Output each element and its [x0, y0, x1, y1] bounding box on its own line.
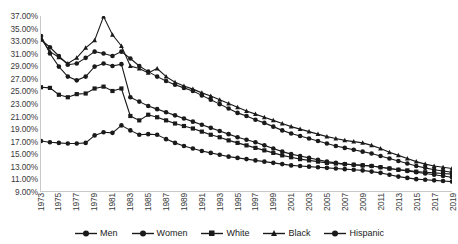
- data-point: [57, 64, 62, 69]
- legend-item-white[interactable]: White: [200, 228, 249, 239]
- y-tick-label: 21.00%: [10, 113, 38, 121]
- data-point: [450, 179, 452, 184]
- y-tick-label: 13.00%: [10, 163, 38, 171]
- x-axis: 1973197519771979198119831985198719891991…: [40, 193, 452, 227]
- data-point: [226, 132, 231, 137]
- data-point: [423, 177, 428, 182]
- data-point: [209, 133, 213, 137]
- data-point: [48, 86, 52, 90]
- data-point: [155, 74, 160, 79]
- data-point: [101, 16, 106, 19]
- data-point: [360, 168, 365, 173]
- data-point: [66, 74, 71, 79]
- data-point: [432, 178, 437, 183]
- x-tick-label: 2015: [412, 193, 422, 211]
- data-point: [84, 91, 88, 95]
- data-point: [280, 153, 284, 157]
- data-point: [146, 113, 150, 117]
- x-tick-label: 1975: [53, 193, 63, 211]
- data-point: [182, 124, 186, 128]
- y-tick-label: 23.00%: [10, 100, 38, 108]
- data-point: [271, 161, 276, 166]
- data-point: [74, 141, 79, 146]
- data-point: [155, 132, 160, 137]
- line-chart: 37.00%35.00%33.00%31.00%29.00%27.00%25.0…: [0, 0, 458, 244]
- x-tick-label: 2017: [430, 193, 440, 211]
- x-tick-label: 2019: [448, 193, 458, 211]
- x-tick-label: 1995: [233, 193, 243, 211]
- data-point: [101, 130, 106, 135]
- data-point: [155, 66, 160, 70]
- data-point: [164, 137, 169, 142]
- data-point: [41, 85, 43, 89]
- data-point: [182, 144, 187, 149]
- data-point: [173, 80, 178, 84]
- data-point: [316, 165, 321, 170]
- data-point: [93, 86, 97, 90]
- data-point: [423, 166, 428, 171]
- data-point: [307, 164, 312, 169]
- data-point: [191, 119, 196, 124]
- data-point: [110, 64, 115, 69]
- plot-svg: [41, 16, 452, 191]
- data-point: [119, 62, 124, 67]
- data-point: [173, 113, 178, 118]
- data-point: [262, 143, 267, 148]
- data-point: [244, 157, 249, 162]
- data-point: [164, 118, 168, 122]
- data-point: [137, 118, 141, 122]
- data-point: [244, 143, 248, 147]
- data-point: [110, 32, 115, 36]
- data-point: [334, 144, 339, 149]
- data-point: [200, 149, 205, 154]
- legend-item-black[interactable]: Black: [262, 228, 310, 239]
- data-point: [92, 64, 97, 69]
- legend-item-women[interactable]: Women: [131, 228, 188, 239]
- data-point: [57, 93, 61, 97]
- data-point: [128, 63, 133, 67]
- data-point: [83, 56, 88, 61]
- data-point: [271, 151, 275, 155]
- data-point: [289, 163, 294, 168]
- data-point: [128, 95, 133, 100]
- data-point: [191, 146, 196, 151]
- data-point: [101, 51, 106, 56]
- y-tick-label: 11.00%: [11, 175, 38, 183]
- y-tick-label: 35.00%: [10, 25, 38, 33]
- data-point: [378, 171, 383, 176]
- data-point: [74, 78, 79, 83]
- legend-item-hispanic[interactable]: Hispanic: [323, 228, 384, 239]
- x-tick-label: 2003: [304, 193, 314, 211]
- data-point: [334, 166, 339, 171]
- data-point: [253, 158, 258, 163]
- legend-label: Black: [288, 228, 310, 239]
- data-point: [342, 167, 347, 172]
- legend-item-men[interactable]: Men: [74, 228, 118, 239]
- legend-label: White: [226, 228, 249, 239]
- data-point: [119, 86, 123, 90]
- data-point: [92, 133, 97, 138]
- data-point: [101, 61, 106, 66]
- data-point: [361, 163, 365, 167]
- series-line: [41, 36, 452, 177]
- data-point: [307, 136, 312, 141]
- data-point: [253, 117, 258, 122]
- data-point: [155, 107, 160, 112]
- data-point: [75, 92, 79, 96]
- data-point: [396, 174, 401, 179]
- data-point: [351, 167, 356, 172]
- x-tick-label: 1983: [125, 193, 135, 211]
- data-point: [155, 115, 159, 119]
- y-tick-label: 27.00%: [10, 75, 38, 83]
- data-point: [137, 99, 142, 104]
- data-point: [66, 95, 70, 99]
- x-tick-label: 1979: [89, 193, 99, 211]
- data-point: [119, 123, 124, 128]
- legend-marker-circle-icon: [131, 228, 155, 239]
- data-point: [414, 164, 419, 169]
- y-tick-label: 15.00%: [10, 150, 38, 158]
- data-point: [217, 152, 222, 157]
- data-point: [441, 179, 446, 184]
- data-point: [325, 161, 329, 165]
- x-tick-label: 1989: [179, 193, 189, 211]
